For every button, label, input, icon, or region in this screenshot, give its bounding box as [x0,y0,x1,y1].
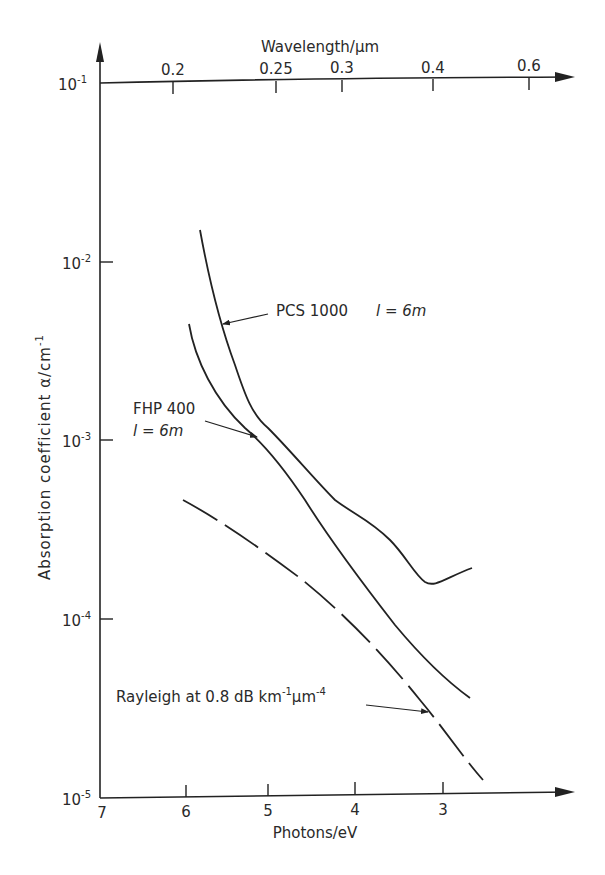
fhp-leader-arrow-icon [205,421,257,437]
bottom-axis-title: Photons/eV [273,824,358,842]
top-tick-labels: 0.2 0.25 0.3 0.4 0.6 [161,57,541,79]
pcs-leader-arrow-icon [223,314,268,324]
svg-text:10-5: 10-5 [62,789,91,809]
y-axis [96,42,113,798]
svg-text:6: 6 [181,803,191,821]
svg-text:10-3: 10-3 [62,431,91,451]
pcs1000-curve [200,230,472,584]
bottom-tick-labels: 7 6 5 4 3 [97,801,448,822]
annotations: PCS 1000 l = 6m FHP 400 l = 6m Rayleigh … [116,302,426,706]
svg-text:10-1: 10-1 [58,74,87,94]
svg-text:7: 7 [97,804,107,822]
svg-text:5: 5 [263,802,273,820]
top-axis-arrow-icon [555,72,575,82]
bottom-axis-arrow-icon [555,787,575,797]
svg-text:10-2: 10-2 [62,253,91,273]
svg-text:0.3: 0.3 [330,59,354,77]
bottom-photon-axis [100,782,575,798]
y-axis-title: Absorption coefficient α/cm-1 [34,334,54,580]
fhp-length-label: l = 6m [133,422,183,440]
svg-text:0.6: 0.6 [517,57,541,75]
svg-text:0.2: 0.2 [161,61,185,79]
svg-text:3: 3 [438,801,448,819]
top-axis-title: Wavelength/µm [261,38,379,56]
svg-text:10-4: 10-4 [62,610,91,630]
rayleigh-leader-arrow-icon [366,705,428,712]
y-tick-labels: 10-1 10-2 10-3 10-4 10-5 [58,74,91,809]
pcs-label: PCS 1000 [276,302,348,320]
absorption-chart: 10-1 10-2 10-3 10-4 10-5 Absorption coef… [0,0,605,875]
fhp-label: FHP 400 [133,400,195,418]
rayleigh-label: Rayleigh at 0.8 dB km-1µm-4 [116,686,326,706]
y-axis-arrow-icon [96,42,104,62]
svg-text:0.25: 0.25 [259,60,292,78]
pcs-length-label: l = 6m [376,302,426,320]
svg-text:4: 4 [350,801,360,819]
svg-text:0.4: 0.4 [421,59,445,77]
fhp400-curve [189,324,470,698]
